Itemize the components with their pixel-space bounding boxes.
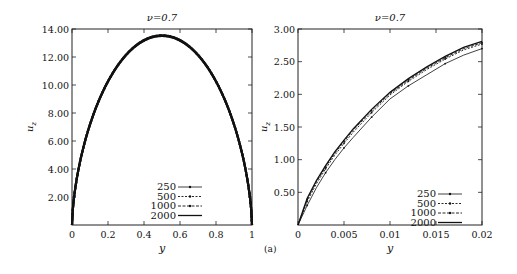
y-tick-label: 10.00 — [42, 80, 69, 91]
y-tick-label: 12.00 — [42, 52, 69, 63]
data-point — [371, 112, 373, 114]
y-tick-label: 1.00 — [274, 154, 295, 165]
right-y-axis-label: uz — [258, 122, 272, 132]
right-plot-title: ν=0.7 — [375, 12, 406, 23]
data-point — [408, 85, 410, 87]
y-tick-label: 4.00 — [48, 164, 69, 175]
left-plot-title: ν=0.7 — [147, 12, 178, 23]
x-tick-label: 0.005 — [330, 229, 357, 240]
svg-text:uz: uz — [24, 122, 38, 132]
right-plot-series — [298, 41, 483, 225]
x-tick-label: 0.2 — [100, 229, 115, 240]
x-tick-label: 0.6 — [172, 229, 187, 240]
left-plot: ν=0.7 00.20.40.60.81 2.004.006.008.0010.… — [24, 12, 255, 255]
x-tick-label: 0.4 — [136, 229, 151, 240]
left-legend: 25050010002000 — [151, 181, 202, 221]
x-tick-label: 0.8 — [208, 229, 223, 240]
left-y-axis-ticks: 2.004.006.008.0010.0012.0014.00 — [42, 24, 252, 203]
x-tick-label: 0.015 — [422, 229, 449, 240]
x-tick-label: 0.02 — [471, 229, 492, 240]
x-tick-label: 0.01 — [379, 229, 400, 240]
y-tick-label: 3.00 — [274, 24, 295, 35]
data-point — [481, 48, 483, 50]
legend-marker — [189, 205, 191, 207]
y-tick-label: 2.50 — [274, 56, 295, 67]
right-plot: ν=0.7 00.0050.010.0150.02 0.501.001.502.… — [258, 12, 493, 255]
y-tick-label: 14.00 — [42, 24, 69, 35]
y-tick-label: 6.00 — [48, 136, 69, 147]
y-tick-label: 2.00 — [274, 89, 295, 100]
data-point — [343, 147, 345, 149]
right-x-axis-ticks: 00.0050.010.0150.02 — [295, 29, 493, 240]
y-tick-label: 2.00 — [48, 192, 69, 203]
data-point — [325, 172, 327, 174]
y-tick-label: 1.50 — [274, 122, 295, 133]
svg-text:uz: uz — [258, 122, 272, 132]
series-line-250 — [298, 49, 482, 225]
right-x-axis-label: y — [386, 242, 394, 255]
legend-marker — [189, 186, 191, 188]
legend-marker — [449, 202, 451, 204]
series-line-500 — [298, 44, 482, 225]
data-point — [444, 63, 446, 65]
legend-label: 2000 — [411, 217, 436, 228]
series-line-2000 — [298, 41, 482, 225]
figure: ν=0.7 00.20.40.60.81 2.004.006.008.0010.… — [0, 0, 517, 274]
left-x-axis-label: y — [158, 242, 166, 255]
x-tick-label: 0 — [295, 229, 301, 240]
legend-label: 2000 — [151, 210, 176, 221]
legend-marker — [189, 195, 191, 197]
x-tick-label: 1 — [249, 229, 255, 240]
figure-caption: (a) — [264, 244, 276, 254]
y-tick-label: 0.50 — [274, 187, 295, 198]
legend-marker — [449, 193, 451, 195]
left-y-axis-label: uz — [24, 122, 38, 132]
x-tick-label: 0 — [69, 229, 75, 240]
legend-marker — [449, 212, 451, 214]
right-plot-frame — [298, 29, 482, 225]
series-line-1000 — [298, 43, 482, 225]
data-point — [306, 205, 308, 207]
y-tick-label: 8.00 — [48, 108, 69, 119]
data-point — [371, 116, 373, 118]
